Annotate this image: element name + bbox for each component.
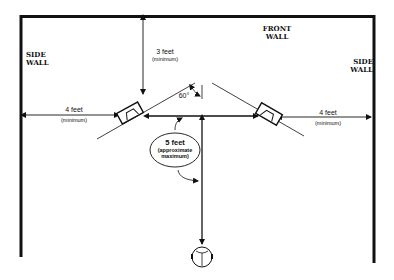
oval-leader-top	[175, 118, 182, 130]
front-clearance-label: 3 feet (minimum)	[148, 48, 182, 63]
left-speaker-icon	[117, 102, 144, 124]
right-speaker-icon	[256, 103, 283, 125]
oval-leader-bottom	[178, 170, 198, 181]
speaker-spacing-label: 5 feet (approximate maximum)	[150, 139, 200, 159]
right-side-wall-label: SIDE WALL	[343, 58, 373, 74]
left-clearance-label: 4 feet (minimum)	[56, 104, 92, 124]
listener-head-icon	[191, 247, 213, 267]
front-wall-label: FRONT WALL	[252, 25, 302, 41]
left-side-wall-label: SIDE WALL	[26, 51, 52, 67]
toe-in-angle-label: 60°	[176, 92, 192, 100]
right-clearance-label: 4 feet (minimum)	[310, 109, 346, 127]
angle-marker	[192, 85, 202, 99]
speaker-placement-diagram: FRONT WALL SIDE WALL SIDE WALL 3 feet (m…	[0, 0, 394, 280]
